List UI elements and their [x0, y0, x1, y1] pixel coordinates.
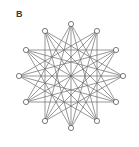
graph-vertex — [68, 125, 73, 130]
figure-panel: B — [0, 0, 139, 147]
circulant-graph-diagram — [0, 0, 139, 147]
graph-vertex — [120, 73, 125, 78]
graph-edge-layer — [19, 24, 123, 128]
graph-vertex — [23, 47, 28, 52]
graph-vertex — [68, 21, 73, 26]
graph-vertex — [42, 28, 47, 33]
graph-vertex — [42, 118, 47, 123]
graph-vertex — [23, 99, 28, 104]
graph-vertex — [16, 73, 21, 78]
graph-vertex — [113, 47, 118, 52]
graph-vertex — [113, 99, 118, 104]
graph-vertex — [94, 118, 99, 123]
graph-vertex — [94, 28, 99, 33]
